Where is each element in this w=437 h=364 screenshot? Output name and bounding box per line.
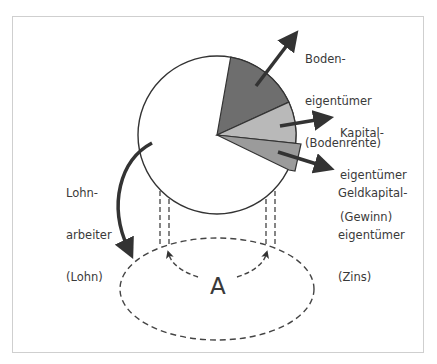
label-line: Lohn- [66,186,112,200]
label-line: Boden- [305,52,381,66]
label-line: arbeiter [66,228,112,242]
label-line: (Lohn) [66,270,112,284]
label-lohnarbeiter: Lohn- arbeiter (Lohn) [66,158,112,298]
label-line: eigentümer [338,228,407,242]
arc-left [169,255,198,277]
label-a: A [210,274,226,298]
label-line: Geldkapital- [338,186,407,200]
label-line: Kapital- [340,126,407,140]
arc-right [237,255,266,277]
label-line: (Zins) [338,270,407,284]
label-geldkapitaleigentuemer: Geldkapital- eigentümer (Zins) [338,158,407,298]
